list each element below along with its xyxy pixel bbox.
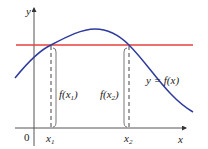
value-label-f-x2: f(x2) <box>100 88 119 102</box>
brace-f-x2 <box>124 48 127 127</box>
y-axis-label: y <box>25 5 31 17</box>
value-label-f-x1: f(x1) <box>59 88 78 102</box>
brace-f-x1 <box>53 48 56 127</box>
tick-label-x1: x1 <box>45 132 54 146</box>
function-diagram: y x 0 x1 x2 f(x1) f(x2) y = f(x) <box>0 0 208 149</box>
origin-label: 0 <box>24 131 30 143</box>
tick-label-x2: x2 <box>123 132 133 146</box>
x-axis-label: x <box>177 133 183 145</box>
curve-label: y = f(x) <box>145 74 179 87</box>
